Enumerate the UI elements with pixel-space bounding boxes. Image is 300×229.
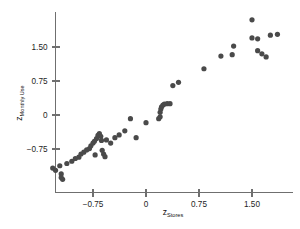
data-point: [93, 152, 98, 157]
x-tick-label: 1.50: [244, 200, 260, 209]
tick-marks-group: [52, 47, 253, 197]
data-point: [104, 137, 109, 142]
data-point: [264, 54, 269, 59]
data-point: [158, 114, 163, 119]
y-tick-label: 0.75: [32, 77, 48, 86]
data-point: [170, 83, 175, 88]
data-point: [134, 135, 139, 140]
data-point: [122, 128, 127, 133]
data-point: [53, 168, 58, 173]
data-point: [230, 52, 235, 57]
data-point: [143, 120, 148, 125]
data-point: [108, 141, 113, 146]
data-point: [275, 32, 280, 37]
x-tick-label: 0.75: [191, 200, 207, 209]
data-point: [255, 36, 260, 41]
data-point: [259, 51, 264, 56]
data-point: [128, 116, 133, 121]
data-point: [255, 48, 260, 53]
data-point: [102, 154, 107, 159]
data-point: [268, 33, 273, 38]
data-points-group: [50, 17, 280, 182]
data-point: [249, 35, 254, 40]
data-point: [99, 138, 104, 143]
data-point: [249, 17, 254, 22]
x-tick-label: −0.75: [83, 200, 104, 209]
data-point: [60, 177, 65, 182]
data-point: [57, 163, 62, 168]
data-point: [201, 66, 206, 71]
y-axis-title: zMonthly Use: [14, 85, 25, 120]
y-tick-label: −0.75: [27, 145, 48, 154]
scatter-plot-figure: −0.7500.751.50−0.7500.751.50 zStoreszMon…: [0, 0, 300, 229]
data-point: [167, 101, 172, 106]
x-tick-label: 0: [144, 200, 149, 209]
data-point: [176, 80, 181, 85]
data-point: [218, 53, 223, 58]
y-tick-label: 0: [43, 111, 48, 120]
data-point: [64, 161, 69, 166]
tick-labels-group: −0.7500.751.50−0.7500.751.50: [27, 43, 261, 209]
y-tick-label: 1.50: [32, 43, 48, 52]
plot-canvas: −0.7500.751.50−0.7500.751.50 zStoreszMon…: [0, 0, 300, 229]
data-point: [117, 132, 122, 137]
x-axis-title: zStores: [163, 207, 184, 218]
data-point: [231, 43, 236, 48]
